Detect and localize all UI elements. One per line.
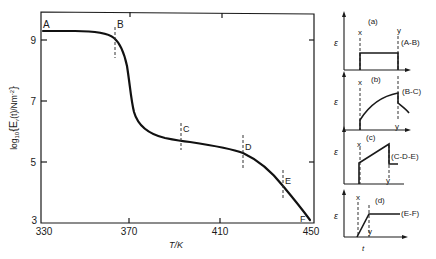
y-tick-label: 9	[30, 35, 36, 46]
figure: 9 7 5 3 330 370 410 450 T/K log10{Er(t)/…	[0, 0, 436, 259]
inset-a: (a) x y (A-B) ε	[334, 11, 420, 72]
y-tick-label: 5	[30, 157, 36, 168]
y-tick-label: 3	[31, 215, 37, 226]
arrow-right-icon	[402, 235, 408, 239]
arrow-up-icon	[342, 126, 346, 132]
svg-text:log10{Er(t)/Nm-2}: log10{Er(t)/Nm-2}	[7, 86, 20, 150]
y-mark: y	[395, 122, 399, 131]
x-tick-label: 410	[212, 226, 229, 237]
epsilon-label: ε	[334, 97, 339, 107]
y-mark: y	[397, 26, 401, 35]
x-tick-label: 370	[121, 226, 138, 237]
inset-label: (a)	[368, 17, 378, 26]
point-label-f: F	[300, 214, 306, 224]
inset-label: (b)	[371, 75, 381, 84]
y-mark: y	[386, 176, 390, 185]
inset-label: (c)	[366, 133, 376, 142]
strain-trace	[360, 53, 398, 70]
inset-d: (d) x y (E-F) ε t	[334, 189, 420, 253]
region-label: (A-B)	[401, 38, 420, 47]
point-label-c: C	[183, 124, 190, 134]
main-chart: 9 7 5 3 330 370 410 450 T/K log10{Er(t)/…	[7, 12, 320, 250]
epsilon-label: ε	[334, 211, 339, 221]
region-label: (C-D-E)	[391, 152, 419, 161]
point-label-a: A	[43, 19, 50, 30]
inset-label: (d)	[375, 196, 385, 205]
modulus-curve	[43, 31, 310, 220]
time-axis-label: t	[362, 244, 365, 253]
point-label-b: B	[117, 19, 124, 30]
arrow-right-icon	[405, 128, 411, 132]
arrow-right-icon	[405, 68, 411, 72]
x-mark: x	[357, 140, 361, 149]
epsilon-label: ε	[334, 38, 339, 48]
arrow-up-icon	[342, 11, 346, 17]
x-axis-label: T/K	[169, 240, 184, 250]
strain-trace	[357, 214, 400, 237]
point-label-d: D	[245, 142, 252, 152]
plot-frame	[41, 12, 314, 223]
arrow-up-icon	[342, 189, 346, 195]
strain-trace	[359, 144, 398, 184]
x-tick-label: 330	[36, 226, 53, 237]
region-label: (E-F)	[401, 209, 420, 218]
y-axis-label: log10{Er(t)/Nm-2}	[7, 86, 20, 150]
x-mark: x	[358, 28, 362, 37]
strain-trace	[360, 93, 409, 130]
region-label: (B-C)	[402, 87, 421, 96]
arrow-up-icon	[342, 71, 346, 77]
inset-c: (c) x y (C-D-E) ε	[334, 126, 419, 185]
point-label-e: E	[285, 176, 291, 186]
x-tick-label: 450	[303, 226, 320, 237]
x-mark: x	[356, 193, 360, 202]
y-tick-label: 7	[30, 96, 36, 107]
y-mark: y	[368, 227, 372, 236]
epsilon-label: ε	[334, 147, 339, 157]
x-mark: x	[358, 78, 362, 87]
inset-b: (b) x y (B-C) ε	[334, 71, 421, 132]
